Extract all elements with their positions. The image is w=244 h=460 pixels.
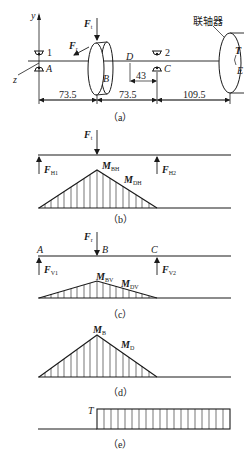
torque-hatching <box>104 409 223 429</box>
point-a-label: A <box>45 63 53 74</box>
torque-label: T <box>235 45 242 56</box>
dim-ce-label: 109.5 <box>183 89 206 100</box>
fh1-label: FH1 <box>43 164 58 176</box>
mdv-label: MDV <box>120 278 139 290</box>
panel-e-torque: T （e） <box>38 405 230 450</box>
dim-ab-label: 73.5 <box>59 89 77 100</box>
point-c-label: C <box>151 244 158 255</box>
torque-label: T <box>88 405 95 416</box>
mbv-label: MBV <box>95 271 114 283</box>
bearing-1-label: 1 <box>47 47 52 58</box>
bearing-2-label: 2 <box>165 47 170 58</box>
shaft-load-diagram: y z 1 A B Ft Fr <box>0 0 244 460</box>
ft-label: Ft <box>83 129 93 141</box>
dim-dc-label: 43 <box>136 70 146 81</box>
moment-diagram-mv <box>39 281 157 298</box>
coupling-leader-line <box>213 26 224 37</box>
mb-label: MB <box>92 324 106 336</box>
point-b-label: B <box>103 73 109 84</box>
point-a-label: A <box>36 244 44 255</box>
fh2-label: FH2 <box>161 164 176 176</box>
point-b-label: B <box>102 244 108 255</box>
caption-c: （c） <box>108 309 132 320</box>
ft-label: Ft <box>83 18 93 30</box>
fv1-label: FV1 <box>43 264 58 276</box>
moment-hatching <box>45 170 149 208</box>
fr-label: Fr <box>83 231 93 243</box>
panel-a-shaft-layout: y z 1 A B Ft Fr <box>12 10 244 123</box>
dim-bc-label: 73.5 <box>119 89 137 100</box>
y-axis-label: y <box>30 10 36 21</box>
point-e-label: E <box>236 65 243 76</box>
caption-b: （b） <box>108 214 133 225</box>
panel-d-resultant-moment: MB MD （d） <box>38 324 231 398</box>
fr-label: Fr <box>68 40 78 52</box>
gear-b <box>88 42 113 104</box>
mbh-label: MBH <box>101 160 120 172</box>
caption-e: （e） <box>108 439 132 450</box>
coupling-label: 联轴器 <box>193 15 223 27</box>
md-label: MD <box>120 339 135 351</box>
panel-b-horizontal-moment: Ft FH1 FH2 MBH MDH （b） <box>38 129 231 225</box>
moment-hatching <box>45 335 149 377</box>
point-d-label: D <box>125 51 134 62</box>
z-axis-label: z <box>12 74 17 85</box>
point-c-label: C <box>164 63 171 74</box>
mdh-label: MDH <box>123 174 142 186</box>
panel-c-vertical-moment: A B C Fr FV1 FV2 MBV MDV （c） <box>36 231 231 320</box>
caption-a: （a） <box>108 112 132 123</box>
moment-diagram-m <box>39 335 157 377</box>
torque-diagram <box>97 409 230 429</box>
y-axis-arrow-icon <box>37 13 41 20</box>
fv2-label: FV2 <box>161 264 176 276</box>
caption-d: （d） <box>108 387 133 398</box>
